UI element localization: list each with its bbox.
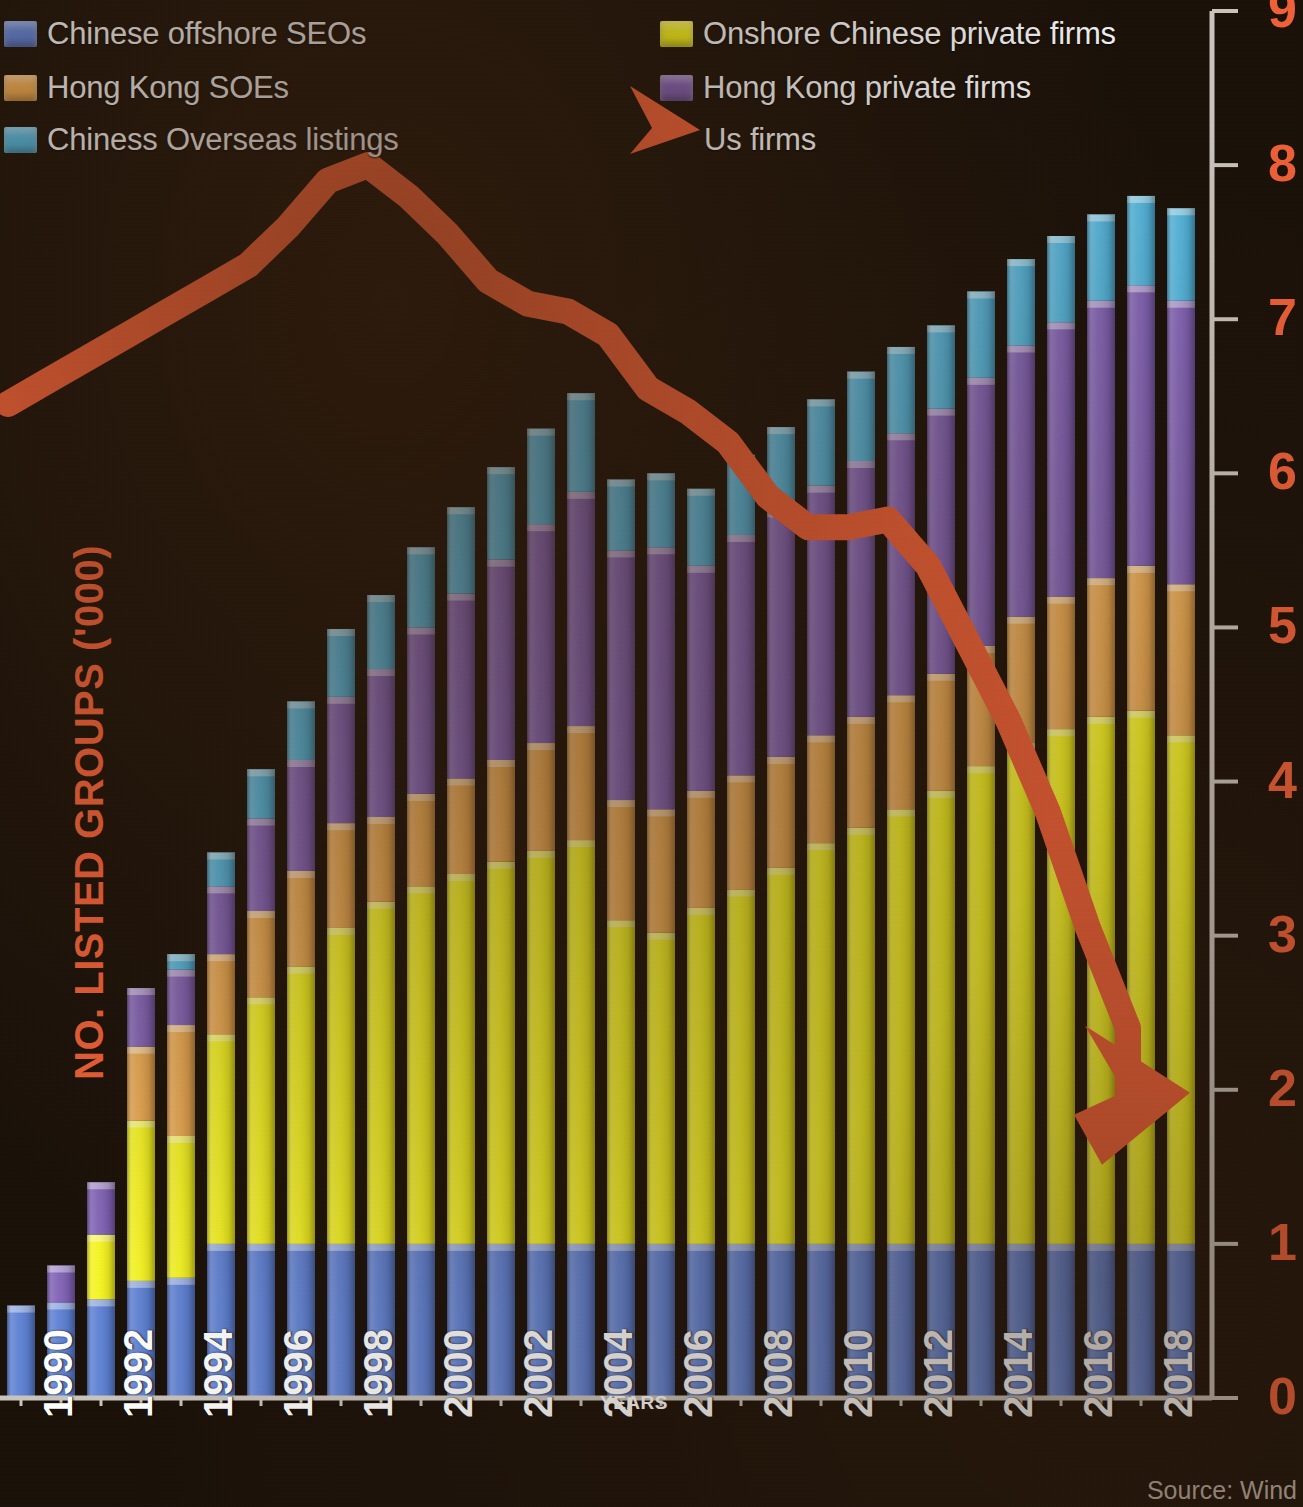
x-axis-tick-label: 2008 [758, 1329, 798, 1418]
x-axis-tick-label: 2000 [438, 1329, 478, 1418]
x-axis-tick-label: 2016 [1078, 1329, 1118, 1418]
x-axis-tick-label: 2012 [918, 1329, 958, 1418]
bar-cylinder-shading [207, 852, 235, 1398]
legend-item-label: Chinese offshore SEOs [47, 18, 366, 49]
x-axis-tick-label: 1992 [118, 1329, 158, 1418]
legend-item-chiness-overseas-listings[interactable]: Chiness Overseas listings [4, 124, 399, 155]
bar-column[interactable] [327, 629, 355, 1398]
bar-cylinder-shading [7, 1306, 35, 1398]
bar-column[interactable] [647, 473, 675, 1398]
legend-item-us-firms[interactable]: Us firms [704, 124, 816, 155]
y-axis-tick-label: 2 [1237, 1062, 1297, 1114]
bar-cylinder-shading [727, 455, 755, 1398]
legend-item-hong-kong-soes[interactable]: Hong Kong SOEs [4, 72, 289, 103]
bar-cylinder-shading [887, 347, 915, 1398]
bar-cylinder-shading [607, 479, 635, 1398]
bar-cylinder-shading [367, 595, 395, 1398]
bar-cylinder-shading [167, 954, 195, 1398]
bar-cylinder-shading [1007, 259, 1035, 1398]
legend-item-label: Hong Kong SOEs [47, 72, 289, 103]
bar-cylinder-shading [767, 427, 795, 1398]
bar-column[interactable] [487, 467, 515, 1398]
bar-column[interactable] [1127, 196, 1155, 1398]
legend-swatch-icon [4, 21, 37, 47]
x-axis-tick-label: 1996 [278, 1329, 318, 1418]
bar-column[interactable] [687, 489, 715, 1398]
bar-cylinder-shading [527, 429, 555, 1398]
bar-column[interactable] [1087, 214, 1115, 1398]
y-axis-title: NO. LISTED GROUPS ('000) [67, 463, 112, 1163]
legend-item-label: Chiness Overseas listings [47, 124, 399, 155]
legend-arrow-glyph [600, 82, 720, 162]
x-axis-tick-label: 2002 [518, 1329, 558, 1418]
bar-series-group [7, 196, 1195, 1398]
bar-column[interactable] [447, 507, 475, 1398]
bar-cylinder-shading [967, 291, 995, 1398]
y-axis-tick-label: 3 [1237, 908, 1297, 960]
legend-item-chinese-offshore-seos[interactable]: Chinese offshore SEOs [4, 18, 366, 49]
bar-cylinder-shading [1127, 196, 1155, 1398]
bar-column[interactable] [167, 954, 195, 1398]
bar-cylinder-shading [927, 325, 955, 1398]
bar-cylinder-shading [567, 393, 595, 1398]
y-axis-tick-label: 5 [1237, 599, 1297, 651]
x-axis-tick-label: 2014 [998, 1329, 1038, 1418]
y-axis-tick-label: 8 [1237, 137, 1297, 189]
y-axis-tick-label: 1 [1237, 1216, 1297, 1268]
bar-column[interactable] [807, 399, 835, 1398]
bar-column[interactable] [407, 547, 435, 1398]
x-axis-tick-label: 1998 [358, 1329, 398, 1418]
bar-column[interactable] [767, 427, 795, 1398]
legend-swatch-icon [4, 127, 37, 153]
bar-cylinder-shading [1087, 214, 1115, 1398]
stacked-bar-chart-plot-area [0, 0, 1303, 1410]
bar-column[interactable] [607, 479, 635, 1398]
y-axis-tick-label: 7 [1237, 291, 1297, 343]
legend-swatch-icon [660, 21, 693, 47]
source-note: Source: Wind [1147, 1476, 1297, 1505]
bar-column[interactable] [967, 291, 995, 1398]
x-axis-title: YEARS [600, 1392, 668, 1414]
y-axis-tick-label: 9 [1237, 0, 1297, 35]
bar-column[interactable] [247, 769, 275, 1398]
x-axis-tick-label: 2006 [678, 1329, 718, 1418]
bar-column[interactable] [287, 701, 315, 1398]
bar-column[interactable] [887, 347, 915, 1398]
x-axis: YEARS 1990199219941996199820002002200420… [0, 1410, 1303, 1507]
bar-column[interactable] [7, 1306, 35, 1398]
x-axis-tick-label: 2018 [1158, 1329, 1198, 1418]
bar-column[interactable] [567, 393, 595, 1398]
bar-column[interactable] [87, 1182, 115, 1398]
legend-arrow-icon [630, 86, 700, 154]
bar-column[interactable] [1007, 259, 1035, 1398]
bar-cylinder-shading [1167, 208, 1195, 1398]
bar-cylinder-shading [687, 489, 715, 1398]
bar-cylinder-shading [807, 399, 835, 1398]
bar-column[interactable] [727, 455, 755, 1398]
x-axis-tick-label: 2010 [838, 1329, 878, 1418]
legend-swatch-icon [4, 75, 37, 101]
bar-cylinder-shading [407, 547, 435, 1398]
bar-cylinder-shading [327, 629, 355, 1398]
bar-column[interactable] [207, 852, 235, 1398]
x-axis-tick-label: 1994 [198, 1329, 238, 1418]
y-axis-tick-label: 6 [1237, 445, 1297, 497]
bar-cylinder-shading [647, 473, 675, 1398]
legend-item-label: Onshore Chinese private firms [703, 18, 1116, 49]
bar-column[interactable] [367, 595, 395, 1398]
legend-item-label: Us firms [704, 124, 816, 155]
bar-cylinder-shading [87, 1182, 115, 1398]
x-axis-tick-label: 1990 [38, 1329, 78, 1418]
bar-column[interactable] [1167, 208, 1195, 1398]
bar-column[interactable] [927, 325, 955, 1398]
legend-item-onshore-chinese-private-firms[interactable]: Onshore Chinese private firms [660, 18, 1116, 49]
bar-cylinder-shading [487, 467, 515, 1398]
bar-column[interactable] [527, 429, 555, 1398]
bar-cylinder-shading [447, 507, 475, 1398]
bar-cylinder-shading [287, 701, 315, 1398]
bar-cylinder-shading [247, 769, 275, 1398]
legend-item-label: Hong Kong private firms [703, 72, 1031, 103]
y-axis-tick-label: 4 [1237, 754, 1297, 806]
